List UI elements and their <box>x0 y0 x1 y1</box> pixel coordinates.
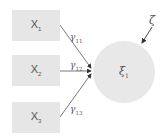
variable-x1: X1 <box>12 10 60 41</box>
x1-label: X1 <box>31 18 42 32</box>
variable-x2: X2 <box>12 55 60 86</box>
path-label-gamma11: γ11 <box>70 32 82 44</box>
x3-label: X3 <box>31 110 42 124</box>
variable-x3: X3 <box>12 102 60 133</box>
path-label-gamma13: γ13 <box>70 104 82 116</box>
path-label-gamma12: γ12 <box>70 60 82 72</box>
latent-variable-xi1: ξ1 <box>93 41 155 103</box>
x2-label: X2 <box>31 63 42 77</box>
disturbance-arrow <box>142 27 152 43</box>
disturbance-label-zeta: ζ <box>149 14 155 27</box>
xi1-label: ξ1 <box>119 65 129 79</box>
